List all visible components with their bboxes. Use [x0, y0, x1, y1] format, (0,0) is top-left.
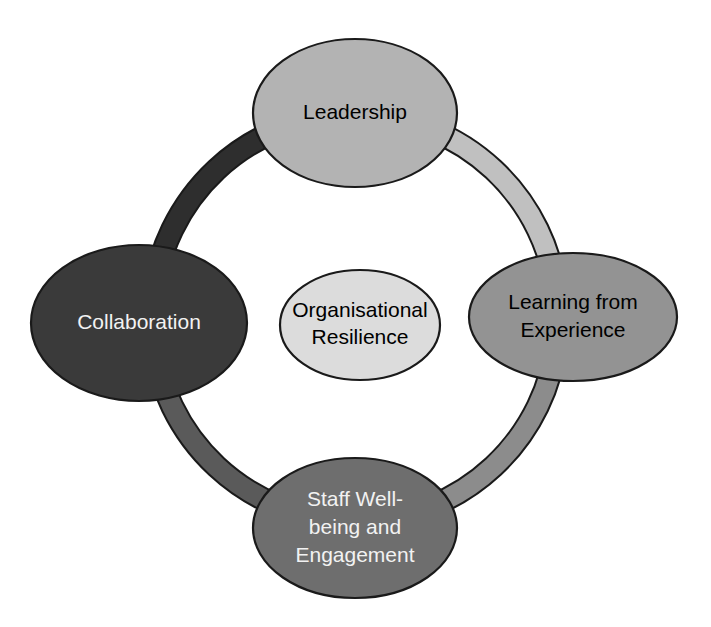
node-learning-from-experience[interactable]: Learning fromExperience	[469, 253, 677, 381]
node-learning-from-experience-label-line-1: Learning from	[508, 290, 638, 313]
center-node-group: OrganisationalResilience	[280, 270, 440, 380]
node-leadership[interactable]: Leadership	[253, 39, 457, 187]
center-node-organisational-resilience[interactable]: OrganisationalResilience	[280, 270, 440, 380]
node-staff-wellbeing-and-engagement-label-line-2: being and	[309, 515, 401, 538]
node-staff-wellbeing-and-engagement-label-line-3: Engagement	[295, 543, 414, 566]
node-staff-wellbeing-and-engagement[interactable]: Staff Well-being andEngagement	[253, 458, 457, 598]
diagram-canvas: LeadershipLearning fromExperienceStaff W…	[0, 0, 711, 627]
center-node-organisational-resilience-label-line-1: Organisational	[292, 298, 427, 321]
organisational-resilience-cycle-diagram: LeadershipLearning fromExperienceStaff W…	[0, 0, 711, 627]
node-learning-from-experience-label-line-2: Experience	[520, 318, 625, 341]
node-leadership-label-line-1: Leadership	[303, 100, 407, 123]
node-collaboration-label-line-1: Collaboration	[77, 310, 201, 333]
node-staff-wellbeing-and-engagement-label-line-1: Staff Well-	[307, 487, 403, 510]
center-node-organisational-resilience-label-line-2: Resilience	[312, 325, 409, 348]
node-collaboration[interactable]: Collaboration	[31, 245, 247, 401]
